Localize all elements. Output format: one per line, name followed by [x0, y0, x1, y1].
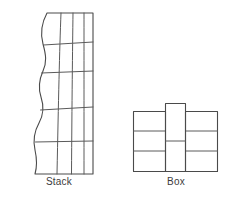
box-figure: [134, 104, 218, 172]
box-label: Box: [126, 176, 226, 187]
box-center-column: [166, 104, 186, 172]
box-right-column: [186, 112, 218, 172]
stack-label: Stack: [0, 176, 118, 187]
stack-figure: [34, 13, 93, 174]
stack-col-divider-1: [57, 13, 61, 174]
stack-col-divider-2: [72, 13, 74, 174]
stack-row-divider-1: [44, 42, 94, 45]
stack-row-divider-2: [42, 71, 94, 73]
stack-row-divider-3: [41, 107, 94, 110]
box-left-column: [134, 112, 166, 172]
figure-canvas: [0, 0, 232, 198]
